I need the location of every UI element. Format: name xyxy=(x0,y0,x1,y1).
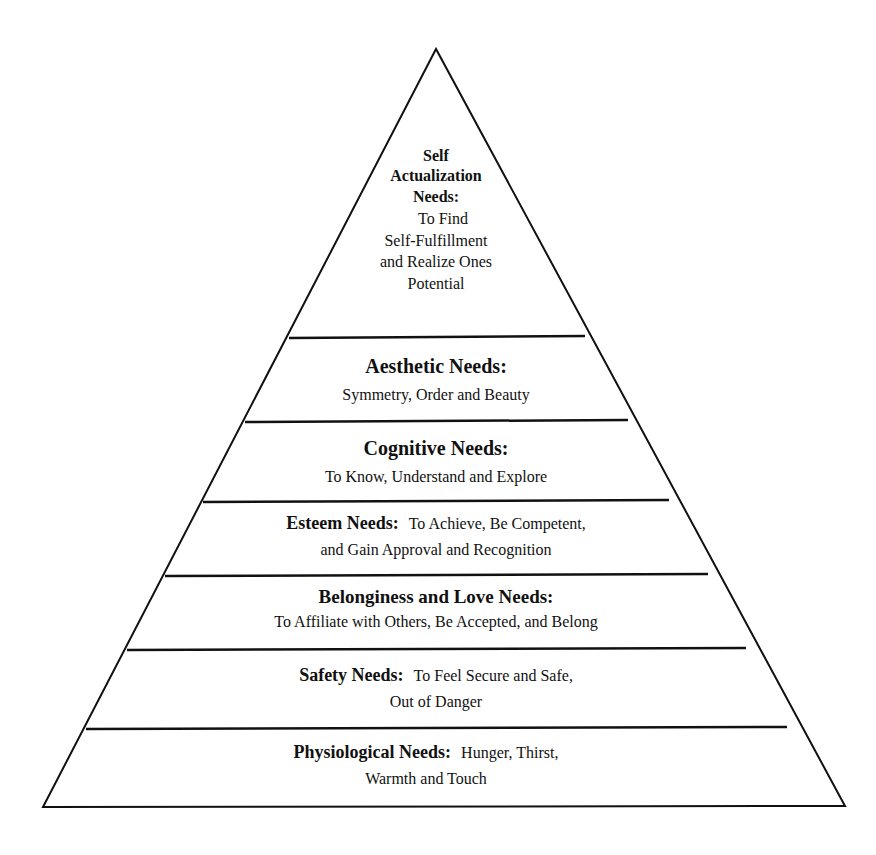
level-title: Cognitive Needs: xyxy=(216,436,656,462)
level-self-actualization: Self Actualization Needs: To Find Self-F… xyxy=(336,146,536,294)
level-desc: Self-Fulfillment xyxy=(336,231,536,251)
level-desc: and Realize Ones xyxy=(336,252,536,272)
level-desc: To Find xyxy=(336,209,536,229)
level-title: Esteem Needs: xyxy=(286,513,398,533)
level-title: Self xyxy=(336,146,536,166)
level-desc-inline: To Feel Secure and Safe, xyxy=(414,667,573,684)
level-desc: Warmth and Touch xyxy=(96,769,776,789)
level-title: Physiological Needs: xyxy=(294,742,452,762)
level-desc: Potential xyxy=(336,274,536,294)
level-aesthetic: Aesthetic Needs: Symmetry, Order and Bea… xyxy=(236,354,636,405)
level-title: Actualization xyxy=(336,166,536,186)
level-esteem: Esteem Needs: To Achieve, Be Competent, … xyxy=(186,512,686,561)
level-desc-inline: Hunger, Thirst, xyxy=(461,744,558,761)
level-title: Aesthetic Needs: xyxy=(236,354,636,380)
level-cognitive: Cognitive Needs: To Know, Understand and… xyxy=(216,436,656,487)
level-belonging: Belonginess and Love Needs: To Affiliate… xyxy=(166,585,706,633)
level-desc: and Gain Approval and Recognition xyxy=(186,540,686,560)
level-physiological: Physiological Needs: Hunger, Thirst, War… xyxy=(96,741,776,790)
level-title: Needs: xyxy=(336,187,536,207)
level-desc: Out of Danger xyxy=(136,692,736,712)
level-desc: To Know, Understand and Explore xyxy=(216,467,656,487)
level-safety: Safety Needs: To Feel Secure and Safe, O… xyxy=(136,664,736,713)
level-desc-inline: To Achieve, Be Competent, xyxy=(409,515,586,532)
level-title: Safety Needs: xyxy=(299,665,403,685)
level-desc: Symmetry, Order and Beauty xyxy=(236,385,636,405)
level-title: Belonginess and Love Needs: xyxy=(166,585,706,609)
pyramid-diagram xyxy=(0,0,876,855)
level-desc: To Affiliate with Others, Be Accepted, a… xyxy=(166,612,706,632)
